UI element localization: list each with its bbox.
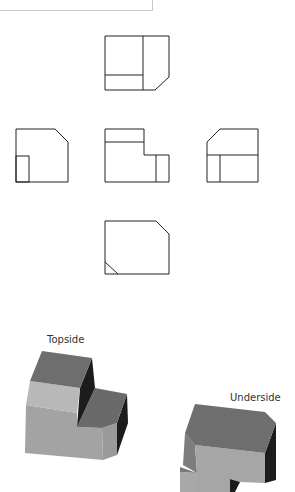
underside-label: Underside (230, 392, 281, 403)
left-view (16, 129, 68, 182)
projection-drawing (0, 0, 295, 492)
bottom-view (105, 221, 169, 274)
top-view (105, 36, 169, 90)
front-view (105, 129, 169, 182)
topside-label: Topside (47, 334, 84, 345)
topside-iso-model (25, 351, 128, 460)
underside-iso-model (180, 404, 276, 492)
right-view (207, 129, 258, 182)
